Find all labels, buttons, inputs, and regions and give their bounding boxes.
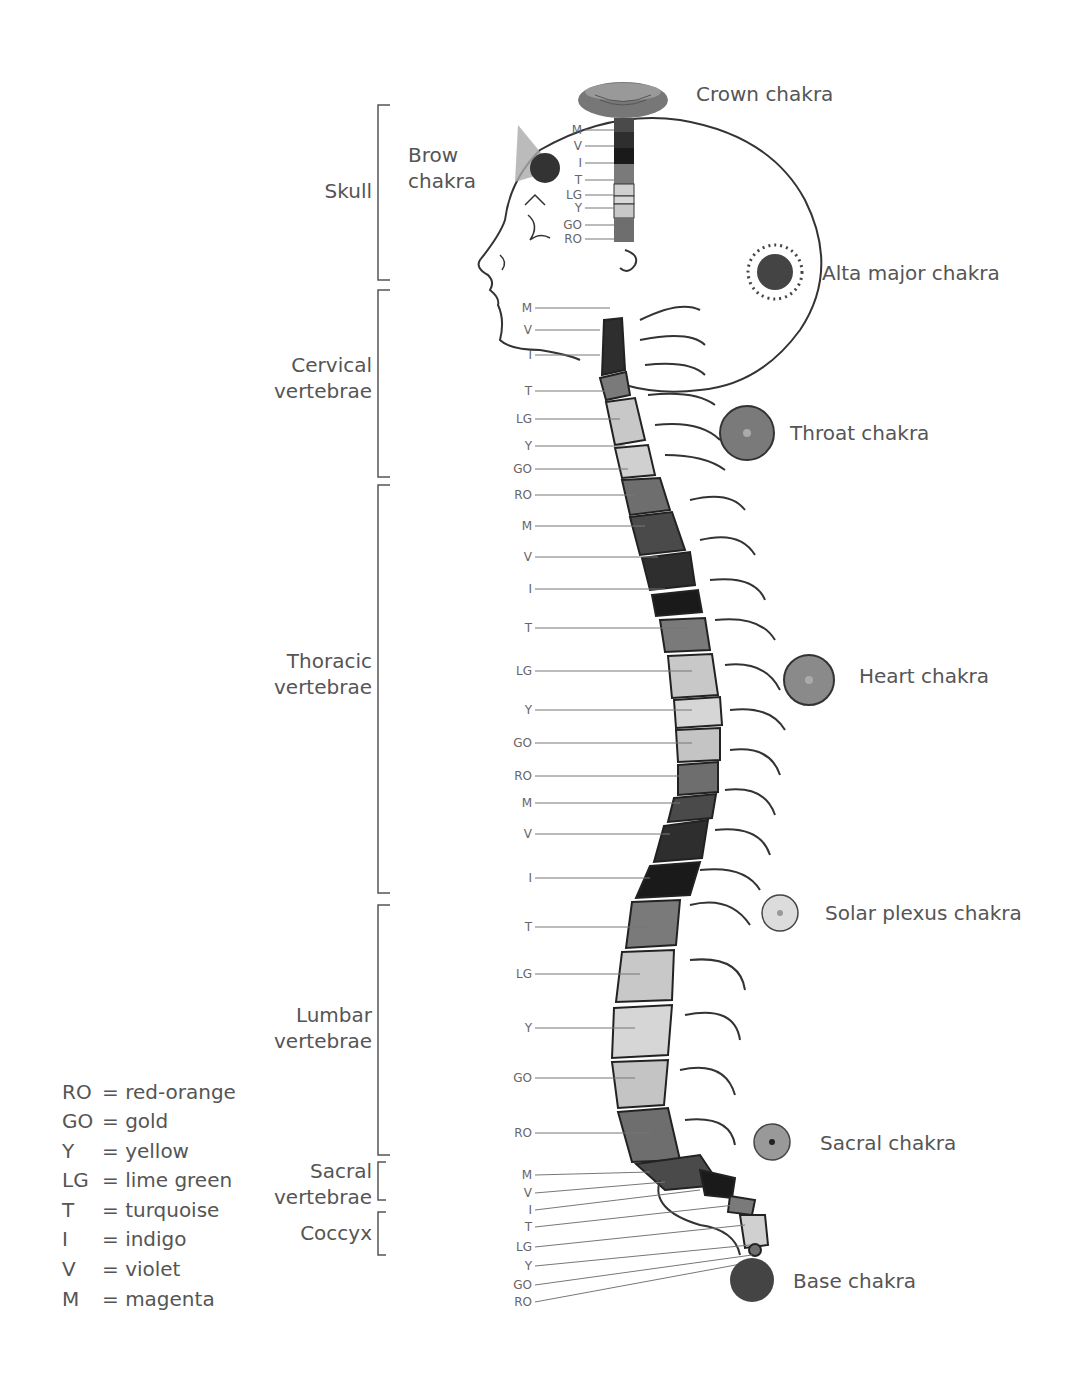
crown-chakra-icon (578, 82, 668, 118)
level-label: T (502, 385, 532, 397)
alta-major-chakra-icon (748, 245, 802, 299)
level-label: Y (502, 440, 532, 452)
level-label: I (502, 1204, 532, 1216)
sacral-chakra-icon (754, 1124, 790, 1160)
level-label: LG (502, 413, 532, 425)
chakra-label-crown: Crown chakra (696, 82, 833, 106)
level-label: V (552, 140, 582, 152)
level-label: LG (502, 968, 532, 980)
legend-row: Y= yellow (62, 1137, 189, 1166)
level-label: LG (502, 665, 532, 677)
level-label: V (502, 1187, 532, 1199)
level-label: T (502, 622, 532, 634)
heart-chakra-icon (784, 655, 834, 705)
level-label: M (552, 124, 582, 136)
level-label: Y (502, 704, 532, 716)
level-label: V (502, 551, 532, 563)
chakra-label-solar-plexus: Solar plexus chakra (825, 901, 1022, 925)
level-label: V (502, 828, 532, 840)
region-label-skull: Skull (325, 178, 372, 204)
level-label: T (502, 1221, 532, 1233)
chakra-label-sacral: Sacral chakra (820, 1131, 956, 1155)
legend-row: LG= lime green (62, 1166, 232, 1195)
legend-row: I= indigo (62, 1225, 187, 1254)
level-label: RO (502, 489, 532, 501)
level-label: GO (502, 1072, 532, 1084)
level-label: RO (502, 1127, 532, 1139)
level-label: GO (502, 1279, 532, 1291)
level-label: Y (552, 202, 582, 214)
level-label: M (502, 1169, 532, 1181)
level-label: M (502, 797, 532, 809)
level-label: LG (552, 189, 582, 201)
skull-color-column (614, 118, 634, 242)
chakra-label-throat: Throat chakra (790, 421, 929, 445)
level-label: RO (552, 233, 582, 245)
level-label: GO (502, 463, 532, 475)
region-label-coccyx: Coccyx (300, 1220, 372, 1246)
chakra-label-heart: Heart chakra (859, 664, 989, 688)
level-label: T (552, 174, 582, 186)
region-label-cervical: Cervical vertebrae (274, 352, 372, 404)
mouth (500, 255, 505, 270)
region-brackets (378, 105, 390, 1255)
level-label: M (502, 520, 532, 532)
level-label: LG (502, 1241, 532, 1253)
legend-row: M= magenta (62, 1285, 215, 1314)
level-label: V (502, 324, 532, 336)
level-label: T (502, 921, 532, 933)
chakra-label-brow: Brow chakra (408, 142, 476, 194)
legend-row: RO= red-orange (62, 1078, 236, 1107)
chakra-label-base: Base chakra (793, 1269, 916, 1293)
level-label: I (502, 872, 532, 884)
legend-row: T= turquoise (62, 1196, 219, 1225)
solar-plexus-chakra-icon (762, 895, 798, 931)
legend-row: GO= gold (62, 1107, 168, 1136)
base-chakra-icon (730, 1258, 774, 1302)
level-label: I (502, 583, 532, 595)
level-label: GO (552, 219, 582, 231)
region-label-lumbar: Lumbar vertebrae (274, 1002, 372, 1054)
region-label-sacral: Sacral vertebrae (274, 1158, 372, 1210)
level-label: Y (502, 1260, 532, 1272)
region-label-thoracic: Thoracic vertebrae (274, 648, 372, 700)
level-label: I (502, 349, 532, 361)
level-label: Y (502, 1022, 532, 1034)
level-label: M (502, 302, 532, 314)
eye (525, 195, 550, 240)
throat-chakra-icon (720, 406, 774, 460)
ear (620, 250, 636, 271)
level-label: RO (502, 770, 532, 782)
legend-row: V= violet (62, 1255, 180, 1284)
level-label: RO (502, 1296, 532, 1308)
level-label: GO (502, 737, 532, 749)
chakra-label-alta-major: Alta major chakra (822, 261, 1000, 285)
level-label: I (552, 157, 582, 169)
